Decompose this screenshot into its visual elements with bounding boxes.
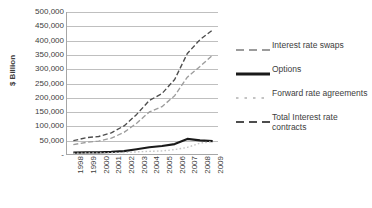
- chart-legend: Interest rate swapsOptionsForward rate a…: [236, 40, 370, 145]
- y-axis-tick-label: -: [18, 151, 64, 159]
- series-lines: [67, 12, 219, 155]
- y-axis-tick-label: 100,000: [18, 122, 64, 130]
- legend-item[interactable]: Interest rate swaps: [236, 40, 370, 51]
- plot-area: [66, 12, 218, 155]
- y-axis-tick-label: 50,000: [18, 137, 64, 145]
- x-axis-tick-labels: 1998199920002001200220032004200520062007…: [66, 156, 218, 202]
- y-axis-title: $ Billion: [8, 41, 17, 101]
- y-axis-tick-label: 500,000: [18, 8, 64, 16]
- legend-label: Options: [270, 64, 301, 74]
- legend-item[interactable]: Options: [236, 64, 370, 75]
- legend-label: Total Interest rate contracts: [270, 112, 370, 132]
- x-axis-tick-label: 2006: [178, 156, 187, 190]
- y-axis-tick-label: 200,000: [18, 94, 64, 102]
- legend-swatch: [236, 41, 270, 51]
- legend-swatch: [236, 89, 270, 99]
- x-axis-tick-label: 1998: [76, 156, 85, 190]
- chart-container: $ Billion 500,000450,000400,000350,00030…: [0, 0, 372, 208]
- x-axis-tick-label: 2000: [102, 156, 111, 190]
- x-axis-tick-label: 2004: [152, 156, 161, 190]
- legend-swatch: [236, 113, 270, 123]
- x-axis-tick-label: 2001: [114, 156, 123, 190]
- x-axis-tick-label: 2007: [190, 156, 199, 190]
- y-axis-tick-label: 350,000: [18, 51, 64, 59]
- x-axis-tick-label: 2002: [127, 156, 136, 190]
- legend-swatch: [236, 65, 270, 75]
- series-line: [73, 55, 212, 145]
- y-axis-tick-labels: 500,000450,000400,000350,000300,000250,0…: [18, 7, 64, 159]
- y-axis-tick-label: 300,000: [18, 65, 64, 73]
- x-axis-tick-label: 2003: [140, 156, 149, 190]
- y-axis-tick-label: 450,000: [18, 22, 64, 30]
- x-axis-tick-label: 1999: [89, 156, 98, 190]
- legend-item[interactable]: Total Interest rate contracts: [236, 112, 370, 132]
- x-axis-tick-label: 2009: [216, 156, 225, 190]
- legend-item[interactable]: Forward rate agreements: [236, 88, 370, 99]
- y-axis-tick-label: 400,000: [18, 37, 64, 45]
- x-axis-tick-label: 2008: [203, 156, 212, 190]
- series-line: [73, 30, 212, 141]
- legend-label: Forward rate agreements: [270, 88, 367, 98]
- x-axis-tick-label: 2005: [165, 156, 174, 190]
- legend-label: Interest rate swaps: [270, 40, 344, 50]
- y-axis-tick-label: 150,000: [18, 108, 64, 116]
- y-axis-tick-label: 250,000: [18, 80, 64, 88]
